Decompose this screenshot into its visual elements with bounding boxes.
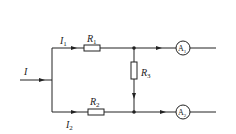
label-r3: R3 <box>140 67 151 80</box>
circuit-diagram: I I1 I2 R1 R2 R3 A1 A2 <box>0 0 236 134</box>
label-a1: A1 <box>178 44 187 54</box>
arrow-icon <box>71 46 77 50</box>
arrow-icons <box>39 46 166 114</box>
label-i1: I1 <box>59 35 67 48</box>
arrow-icon <box>160 110 166 114</box>
arrow-icon <box>39 78 45 82</box>
label-i2: I2 <box>65 119 73 132</box>
junction-top <box>132 46 136 50</box>
arrow-icon <box>156 46 162 50</box>
label-r1: R1 <box>86 33 97 46</box>
label-i: I <box>23 66 28 77</box>
resistor-r2 <box>88 109 104 115</box>
arrow-icon <box>132 93 136 99</box>
arrow-icon <box>71 110 77 114</box>
resistor-r3 <box>131 62 137 79</box>
resistor-r1 <box>84 45 100 51</box>
circuit-svg: I I1 I2 R1 R2 R3 A1 A2 <box>0 0 236 134</box>
junction-bottom <box>132 110 136 114</box>
label-r2: R2 <box>89 96 100 109</box>
label-a2: A2 <box>178 108 187 118</box>
